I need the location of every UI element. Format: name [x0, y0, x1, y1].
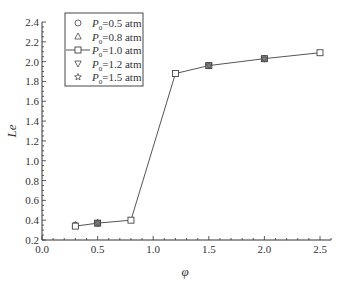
y-tick-label: 1.0 — [25, 155, 39, 167]
y-tick-label: 1.4 — [25, 115, 39, 127]
y-tick-label: 2.2 — [25, 36, 39, 48]
x-tick-label: 0.5 — [91, 243, 105, 255]
y-tick-label: 1.2 — [25, 135, 39, 147]
square-marker — [128, 217, 134, 223]
data-point — [261, 55, 268, 62]
legend: P0=0.5 atmP0=0.8 atmP0=1.0 atmP0=1.2 atm… — [65, 13, 143, 86]
x-tick-label: 1.5 — [202, 243, 216, 255]
y-axis-ticks: 0.20.40.60.81.01.21.41.61.82.02.22.4 — [25, 16, 46, 246]
square-marker — [172, 71, 178, 77]
y-tick-label: 2.4 — [25, 16, 39, 28]
y-tick-label: 0.4 — [25, 214, 39, 226]
line-chart: 0.00.51.01.52.02.5 0.20.40.60.81.01.21.4… — [0, 0, 344, 292]
square-marker — [72, 223, 78, 229]
y-tick-label: 1.8 — [25, 75, 39, 87]
square-marker — [75, 47, 81, 53]
y-axis-title: Le — [4, 124, 19, 138]
square-marker — [317, 50, 323, 56]
x-tick-label: 1.0 — [146, 243, 160, 255]
x-axis-ticks: 0.00.51.01.52.02.5 — [35, 236, 331, 255]
y-tick-label: 0.6 — [25, 194, 39, 206]
data-point — [72, 222, 78, 230]
data-point — [205, 62, 212, 69]
data-point — [317, 50, 323, 56]
data-point — [172, 71, 178, 77]
y-tick-label: 2.0 — [25, 56, 39, 68]
data-point — [94, 220, 101, 227]
y-tick-label: 0.2 — [25, 234, 39, 246]
y-tick-label: 1.6 — [25, 95, 39, 107]
data-point — [128, 217, 134, 223]
x-tick-label: 2.0 — [258, 243, 272, 255]
x-tick-label: 2.5 — [313, 243, 327, 255]
x-axis-title: φ — [181, 264, 188, 279]
y-tick-label: 0.8 — [25, 175, 39, 187]
